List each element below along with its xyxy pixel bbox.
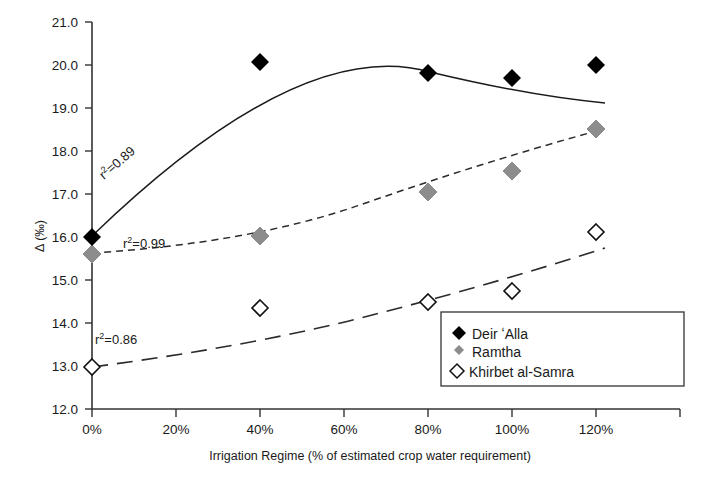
annotation-r2-ramtha: r2=0.99 — [123, 235, 165, 251]
y-tick-label: 17.0 — [52, 187, 78, 202]
annotation-r2-deir-alla: r2=0.89 — [95, 142, 137, 182]
y-tick-label: 19.0 — [52, 101, 78, 116]
svg-text:r2=0.89: r2=0.89 — [95, 142, 137, 182]
y-tick-label: 12.0 — [52, 402, 78, 417]
x-tick-label: 40% — [246, 422, 273, 437]
data-point — [84, 359, 100, 375]
r2-value: =0.89 — [103, 143, 138, 176]
trendline-ramtha — [92, 130, 600, 253]
x-tick-label: 0% — [82, 422, 102, 437]
data-point — [251, 53, 269, 71]
data-point — [503, 162, 521, 180]
x-axis-ticks: 0% 20% 40% 60% 80% 100% 120% — [82, 409, 680, 437]
data-point — [83, 245, 101, 263]
y-tick-label: 14.0 — [52, 316, 78, 331]
y-axis-ticks: 12.0 13.0 14.0 15.0 16.0 17.0 18.0 19.0 … — [52, 15, 92, 417]
y-tick-label: 20.0 — [52, 58, 78, 73]
data-point — [587, 56, 605, 74]
legend-label: Deir ʻAlla — [472, 326, 528, 342]
data-point — [420, 294, 436, 310]
x-tick-label: 20% — [162, 422, 189, 437]
x-tick-label: 120% — [579, 422, 614, 437]
y-tick-label: 18.0 — [52, 144, 78, 159]
legend-label: Khirbet al-Samra — [469, 364, 574, 380]
y-tick-label: 15.0 — [52, 273, 78, 288]
x-tick-label: 100% — [495, 422, 530, 437]
legend-label: Ramtha — [472, 344, 521, 360]
svg-text:r2=0.86: r2=0.86 — [95, 331, 137, 347]
r2-value: =0.99 — [132, 236, 165, 251]
data-point — [252, 300, 268, 316]
chart-container: 12.0 13.0 14.0 15.0 16.0 17.0 18.0 19.0 … — [0, 0, 702, 478]
legend-item-khirbet-al-samra[interactable]: Khirbet al-Samra — [450, 364, 574, 380]
x-tick-label: 80% — [414, 422, 441, 437]
data-point — [503, 69, 521, 87]
svg-text:r2=0.99: r2=0.99 — [123, 235, 165, 251]
data-point — [587, 120, 605, 138]
series-deir-alla-markers — [83, 53, 605, 246]
x-axis-title: Irrigation Regime (% of estimated crop w… — [209, 449, 531, 463]
r2-value: =0.86 — [104, 332, 137, 347]
y-tick-label: 13.0 — [52, 359, 78, 374]
scatter-plot-svg: 12.0 13.0 14.0 15.0 16.0 17.0 18.0 19.0 … — [0, 0, 702, 478]
data-point — [251, 227, 269, 245]
annotation-r2-khirbet-al-samra: r2=0.86 — [95, 331, 137, 347]
data-point — [588, 224, 604, 240]
y-tick-label: 21.0 — [52, 15, 78, 30]
data-point — [419, 183, 437, 201]
data-point — [504, 283, 520, 299]
y-tick-label: 16.0 — [52, 230, 78, 245]
x-tick-label: 60% — [330, 422, 357, 437]
y-axis-title: Δ (‰) — [33, 220, 47, 252]
legend: Deir ʻAlla Ramtha Khirbet al-Samra — [441, 312, 684, 386]
data-point — [419, 64, 437, 82]
